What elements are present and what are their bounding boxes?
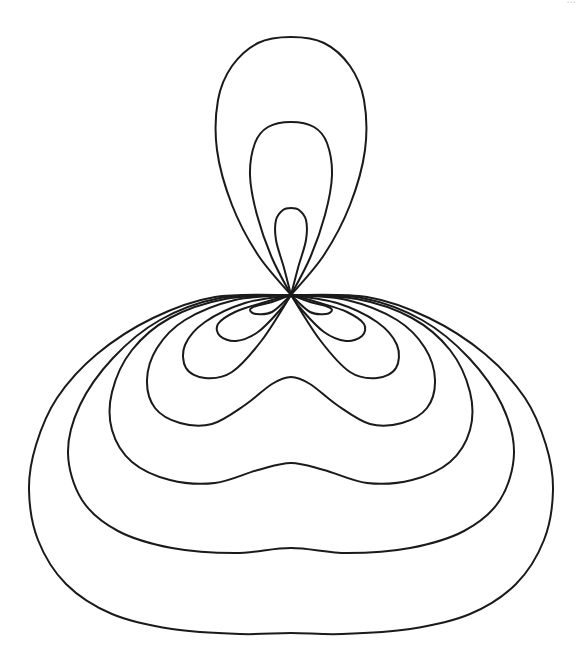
curve-3 (216, 37, 367, 295)
curve-7-outer (29, 295, 553, 634)
curve-4 (147, 295, 435, 426)
curve-3-petal (183, 295, 291, 378)
watermark-text: ... (566, 0, 576, 5)
curve-6 (68, 295, 514, 553)
curve-5 (110, 295, 473, 484)
polar-pattern-diagram (0, 0, 584, 666)
curve-3-petal (291, 295, 399, 378)
curve-group (29, 37, 553, 634)
